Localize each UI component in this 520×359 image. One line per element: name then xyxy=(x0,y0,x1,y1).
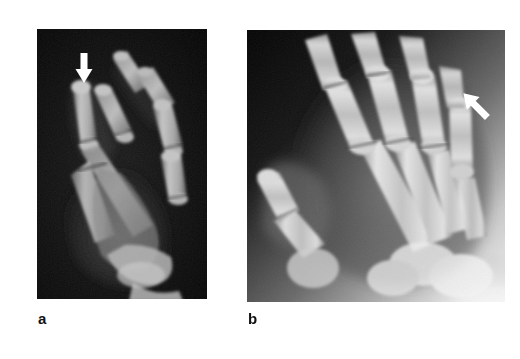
xray-image-b xyxy=(247,30,505,302)
panel-a-film-grain xyxy=(37,29,207,299)
panel-b-film-grain xyxy=(247,30,505,302)
figure-root: a b xyxy=(0,0,520,359)
radiograph-panel-b xyxy=(247,30,505,302)
panel-label-b: b xyxy=(248,311,257,326)
xray-image-a xyxy=(37,29,207,299)
panel-label-a: a xyxy=(38,311,46,326)
radiograph-panel-a xyxy=(37,29,207,299)
